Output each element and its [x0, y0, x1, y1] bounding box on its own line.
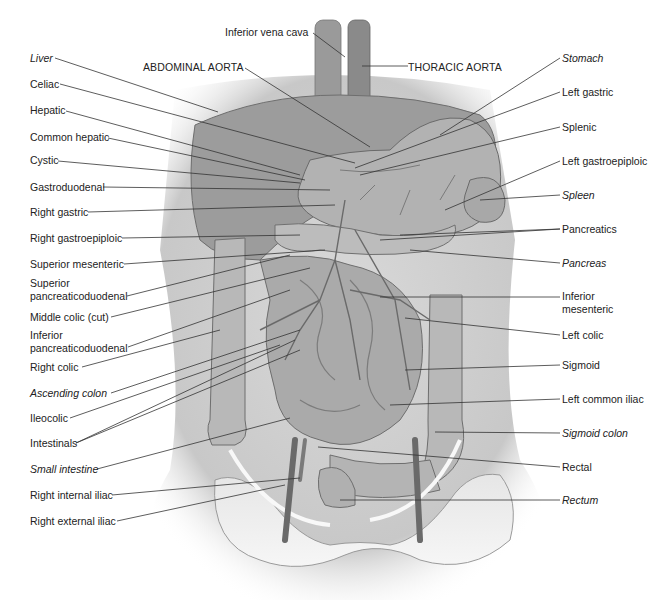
- label-inferior-vena-cava: Inferior vena cava: [225, 26, 308, 39]
- label-sigmoid-colon: Sigmoid colon: [562, 427, 628, 440]
- label-rectal: Rectal: [562, 461, 592, 474]
- label-inferior-pancreaticoduodenal-1: Inferior: [30, 329, 63, 342]
- label-right-external-iliac: Right external iliac: [30, 515, 116, 528]
- label-pancreas: Pancreas: [562, 257, 606, 270]
- label-small-intestine: Small intestine: [30, 463, 98, 476]
- label-gastroduodenal: Gastroduodenal: [30, 181, 105, 194]
- label-inferior-mesenteric-2: mesenteric: [562, 303, 613, 316]
- label-cystic: Cystic: [30, 154, 59, 167]
- label-inferior-mesenteric-1: Inferior: [562, 290, 595, 303]
- label-superior-mesenteric: Superior mesenteric: [30, 258, 124, 271]
- label-rectum: Rectum: [562, 494, 598, 507]
- label-inferior-pancreaticoduodenal-2: pancreaticoduodenal: [30, 342, 128, 355]
- label-abdominal-aorta: ABDOMINAL AORTA: [143, 61, 244, 74]
- label-stomach: Stomach: [562, 52, 603, 65]
- label-right-colic: Right colic: [30, 361, 78, 374]
- label-celiac: Celiac: [30, 78, 59, 91]
- label-superior-pancreaticoduodenal-1: Superior: [30, 277, 70, 290]
- label-sigmoid: Sigmoid: [562, 359, 600, 372]
- label-right-gastric: Right gastric: [30, 206, 88, 219]
- label-spleen: Spleen: [562, 189, 595, 202]
- label-liver: Liver: [30, 52, 53, 65]
- label-right-gastroepiploic: Right gastroepiploic: [30, 232, 122, 245]
- label-ileocolic: Ileocolic: [30, 412, 68, 425]
- label-intestinals: Intestinals: [30, 437, 77, 450]
- label-middle-colic: Middle colic (cut): [30, 311, 109, 324]
- label-left-common-iliac: Left common iliac: [562, 393, 644, 406]
- label-right-internal-iliac: Right internal iliac: [30, 489, 113, 502]
- label-splenic: Splenic: [562, 121, 596, 134]
- label-hepatic: Hepatic: [30, 104, 66, 117]
- label-pancreatics: Pancreatics: [562, 223, 617, 236]
- label-superior-pancreaticoduodenal-2: pancreaticoduodenal: [30, 290, 128, 303]
- label-common-hepatic: Common hepatic: [30, 131, 109, 144]
- label-ascending-colon: Ascending colon: [30, 387, 107, 400]
- label-thoracic-aorta: THORACIC AORTA: [408, 61, 502, 74]
- label-left-gastroepiploic: Left gastroepiploic: [562, 155, 647, 168]
- label-left-gastric: Left gastric: [562, 86, 613, 99]
- label-left-colic: Left colic: [562, 329, 603, 342]
